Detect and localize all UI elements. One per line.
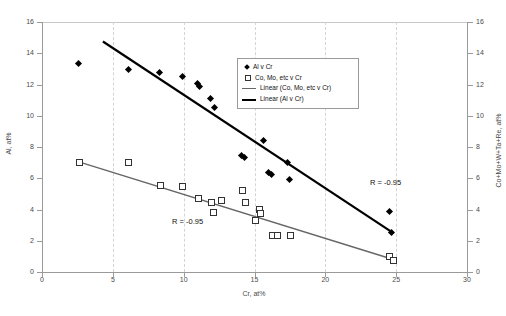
- y-tick-right: [468, 210, 473, 211]
- data-point-diamond: [196, 83, 203, 90]
- data-point-square: [252, 217, 259, 224]
- legend-label: Linear (Al v Cr): [260, 94, 304, 105]
- y-tick-label-right: 2: [476, 237, 502, 244]
- y-tick-right: [468, 241, 473, 242]
- x-tick-label: 0: [27, 276, 57, 283]
- y-tick-label-right: 12: [476, 81, 502, 88]
- x-tick-label: 5: [98, 276, 128, 283]
- data-point-square: [242, 199, 249, 206]
- y-tick-left: [37, 53, 42, 54]
- data-point-diamond: [268, 171, 275, 178]
- data-point-diamond: [241, 154, 248, 161]
- legend-item-comow-v-cr: Co, Mo, etc v Cr: [242, 73, 354, 84]
- gridline-vertical: [184, 22, 185, 272]
- y-tick-label-left: 2: [8, 237, 34, 244]
- y-tick-right: [468, 22, 473, 23]
- data-point-diamond: [207, 95, 214, 102]
- data-point-diamond: [388, 229, 395, 236]
- data-point-diamond: [284, 159, 291, 166]
- data-point-diamond: [386, 208, 393, 215]
- correlation-annotation-al: R = -0.95: [370, 178, 401, 187]
- y-tick-left: [37, 147, 42, 148]
- data-point-square: [239, 187, 246, 194]
- y-tick-left: [37, 210, 42, 211]
- legend-item-al-v-cr: Al v Cr: [242, 62, 354, 73]
- chart-legend: Al v Cr Co, Mo, etc v Cr Linear (Co, Mo,…: [237, 58, 359, 109]
- legend-item-linear-comow: Linear (Co, Mo, etc v Cr): [242, 83, 354, 94]
- data-point-diamond: [211, 104, 218, 111]
- y-tick-label-left: 12: [8, 81, 34, 88]
- x-tick-label: 10: [169, 276, 199, 283]
- y-tick-label-right: 16: [476, 18, 502, 25]
- data-point-square: [125, 159, 132, 166]
- data-point-square: [218, 197, 225, 204]
- y-axis-left-line: [42, 22, 43, 272]
- y-axis-left-title: Al, at%: [5, 114, 12, 174]
- y-tick-label-left: 0: [8, 268, 34, 275]
- legend-label: Co, Mo, etc v Cr: [255, 73, 302, 84]
- y-tick-left: [37, 178, 42, 179]
- y-tick-label-left: 6: [8, 174, 34, 181]
- y-axis-right-title: Co+Mo+W+Ta+Re, at%: [495, 91, 502, 211]
- y-tick-left: [37, 241, 42, 242]
- gridline-vertical: [396, 22, 397, 272]
- data-point-square: [157, 182, 164, 189]
- y-tick-label-left: 10: [8, 112, 34, 119]
- data-point-diamond: [156, 69, 163, 76]
- trendline: [79, 162, 394, 260]
- y-tick-right: [468, 85, 473, 86]
- thick-line-icon: [242, 99, 256, 101]
- x-tick-label: 25: [381, 276, 411, 283]
- data-point-square: [257, 210, 264, 217]
- x-tick-label: 20: [310, 276, 340, 283]
- data-point-diamond: [259, 137, 266, 144]
- y-tick-right: [468, 147, 473, 148]
- gridline-vertical: [113, 22, 114, 272]
- legend-label: Linear (Co, Mo, etc v Cr): [260, 83, 331, 94]
- data-point-diamond: [286, 175, 293, 182]
- y-tick-label-left: 8: [8, 143, 34, 150]
- data-point-square: [195, 195, 202, 202]
- thin-line-icon: [242, 88, 256, 89]
- filled-diamond-icon: [244, 65, 250, 71]
- y-tick-label-right: 14: [476, 49, 502, 56]
- y-tick-left: [37, 22, 42, 23]
- x-tick-label: 15: [240, 276, 270, 283]
- correlation-annotation-comow: R = -0.95: [172, 217, 203, 226]
- data-point-square: [274, 232, 281, 239]
- y-tick-left: [37, 116, 42, 117]
- y-tick-label-left: 4: [8, 206, 34, 213]
- data-point-square: [179, 183, 186, 190]
- data-point-square: [390, 257, 397, 264]
- x-tick-label: 30: [452, 276, 482, 283]
- data-point-square: [287, 232, 294, 239]
- y-tick-right: [468, 178, 473, 179]
- data-point-diamond: [75, 60, 82, 67]
- y-tick-left: [37, 85, 42, 86]
- data-point-square: [210, 209, 217, 216]
- data-point-diamond: [179, 73, 186, 80]
- y-tick-label-left: 16: [8, 18, 34, 25]
- legend-label: Al v Cr: [253, 62, 273, 73]
- y-tick-label-left: 14: [8, 49, 34, 56]
- data-point-diamond: [125, 66, 132, 73]
- data-point-square: [76, 159, 83, 166]
- y-tick-label-right: 0: [476, 268, 502, 275]
- open-square-icon: [245, 75, 251, 81]
- y-tick-right: [468, 53, 473, 54]
- scatter-chart: 0246810121416 0246810121416 051015202530…: [0, 0, 506, 316]
- data-point-square: [208, 199, 215, 206]
- y-tick-right: [468, 116, 473, 117]
- y-tick-right: [468, 272, 473, 273]
- x-axis-title: Cr, at%: [194, 290, 314, 297]
- legend-item-linear-al: Linear (Al v Cr): [242, 94, 354, 105]
